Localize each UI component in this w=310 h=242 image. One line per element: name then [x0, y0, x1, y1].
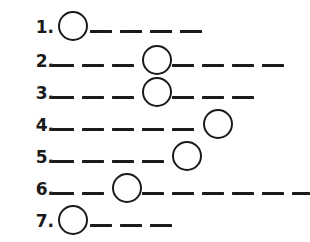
dash-segment — [202, 192, 224, 195]
dash-segment — [262, 64, 284, 67]
circle-marker[interactable] — [58, 205, 88, 235]
puzzle-row: 3. — [0, 76, 310, 110]
dash-segment — [52, 96, 74, 99]
circle-marker[interactable] — [142, 77, 172, 107]
circle-marker[interactable] — [58, 11, 88, 41]
dash-segment — [82, 64, 104, 67]
dash-segment — [112, 128, 134, 131]
dash-segment — [202, 96, 224, 99]
dash-segment — [142, 192, 164, 195]
dash-segment — [262, 192, 284, 195]
dash-segment — [120, 224, 142, 227]
dash-segment — [172, 64, 194, 67]
puzzle-row: 7. — [0, 204, 310, 238]
dash-segment — [90, 30, 112, 33]
dash-segment — [232, 192, 254, 195]
dash-segment — [112, 160, 134, 163]
dash-segment — [172, 192, 194, 195]
dash-segment — [232, 64, 254, 67]
puzzle-sheet: 1.2.3.4.5.6.7. — [0, 0, 310, 242]
circle-marker[interactable] — [172, 141, 202, 171]
puzzle-row: 4. — [0, 108, 310, 142]
puzzle-row: 1. — [0, 10, 310, 44]
puzzle-row: 6. — [0, 172, 310, 206]
dash-segment — [292, 192, 310, 195]
dash-segment — [52, 128, 74, 131]
dash-segment — [120, 30, 142, 33]
dash-segment — [142, 160, 164, 163]
dash-segment — [142, 128, 164, 131]
dash-segment — [150, 224, 172, 227]
circle-marker[interactable] — [142, 45, 172, 75]
dash-segment — [82, 128, 104, 131]
dashed-line-track — [0, 204, 310, 238]
dash-segment — [82, 192, 104, 195]
dash-segment — [172, 96, 194, 99]
dash-segment — [232, 96, 254, 99]
dash-segment — [90, 224, 112, 227]
dashed-line-track — [0, 140, 310, 174]
dashed-line-track — [0, 172, 310, 206]
dash-segment — [172, 128, 194, 131]
puzzle-row: 5. — [0, 140, 310, 174]
dash-segment — [202, 64, 224, 67]
circle-marker[interactable] — [112, 173, 142, 203]
dashed-line-track — [0, 108, 310, 142]
dashed-line-track — [0, 10, 310, 44]
circle-marker[interactable] — [203, 109, 233, 139]
dash-segment — [52, 192, 74, 195]
dash-segment — [52, 64, 74, 67]
dash-segment — [82, 160, 104, 163]
dash-segment — [82, 96, 104, 99]
dash-segment — [150, 30, 172, 33]
dash-segment — [112, 64, 134, 67]
dash-segment — [52, 160, 74, 163]
dash-segment — [180, 30, 202, 33]
puzzle-row: 2. — [0, 44, 310, 78]
dash-segment — [112, 96, 134, 99]
